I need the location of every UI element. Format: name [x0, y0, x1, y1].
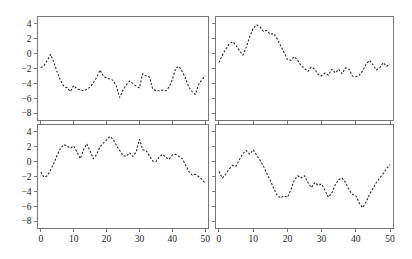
x-tick-label: 20 [283, 234, 293, 244]
x-tick-label: 40 [168, 234, 178, 244]
y-tick-label: −2 [21, 64, 31, 74]
figure-container: 420−2−4−6−8 420−2−4−6−801020304050 01020… [0, 0, 412, 259]
y-tick-label: 0 [27, 157, 32, 167]
y-tick-label: −4 [21, 79, 31, 89]
y-tick-label: −6 [21, 202, 31, 212]
x-tick-label: 50 [385, 234, 395, 244]
figure-background [0, 0, 412, 259]
four-panel-line-chart: 420−2−4−6−8 420−2−4−6−801020304050 01020… [0, 0, 412, 259]
x-tick-label: 30 [135, 234, 145, 244]
y-tick-label: −8 [21, 108, 31, 118]
y-tick-label: 4 [27, 127, 32, 137]
x-tick-label: 0 [38, 234, 43, 244]
x-tick-label: 20 [102, 234, 112, 244]
x-tick-label: 50 [200, 234, 210, 244]
y-tick-label: −4 [21, 187, 31, 197]
y-tick-label: −8 [21, 216, 31, 226]
y-tick-label: 2 [27, 142, 32, 152]
x-tick-label: 0 [217, 234, 222, 244]
y-tick-label: −6 [21, 94, 31, 104]
y-tick-label: 2 [27, 34, 32, 44]
x-tick-label: 30 [317, 234, 327, 244]
x-tick-label: 40 [351, 234, 361, 244]
y-tick-label: −2 [21, 172, 31, 182]
y-tick-label: 0 [27, 49, 32, 59]
y-tick-label: 4 [27, 19, 32, 29]
x-tick-label: 10 [69, 234, 79, 244]
x-tick-label: 10 [248, 234, 258, 244]
